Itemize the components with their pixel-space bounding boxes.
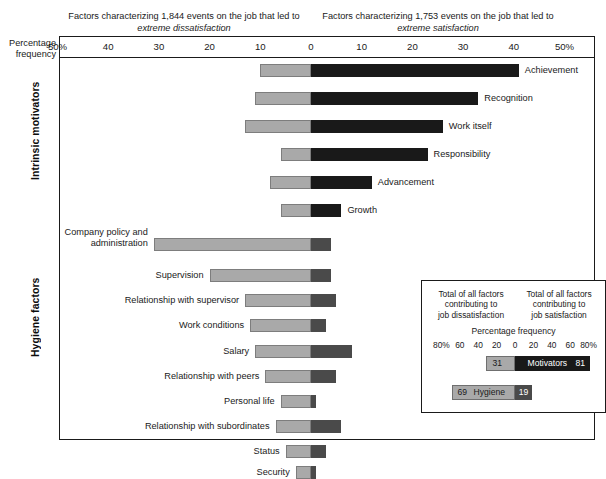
bar-segment-dissatisfaction [245, 120, 311, 133]
inset-caption-dis-l2: contributing to [445, 299, 498, 309]
inset-caption-dis-l3: job dissatisfaction [438, 310, 504, 320]
bar-segment-dissatisfaction [296, 466, 311, 479]
x-axis-tick-left-40: 40 [103, 41, 114, 52]
bar-segment-satisfaction [311, 445, 326, 458]
bar-segment-satisfaction [311, 269, 331, 282]
caption-dissatisfaction: Factors characterizing 1,844 events on t… [58, 11, 310, 34]
bar-segment-dissatisfaction [281, 395, 311, 408]
bar-segment-satisfaction [311, 204, 341, 217]
inset-series-name: Hygiene [474, 385, 506, 400]
bar-row: Advancement [60, 176, 594, 189]
inset-caption-dissatisfaction: Total of all factors contributing to job… [427, 289, 515, 320]
bar-label: Supervision [156, 270, 204, 281]
bar-segment-dissatisfaction [260, 64, 311, 77]
x-axis-tick-right-50pct: 50% [555, 41, 574, 52]
inset-value-dissatisfaction: 69 [458, 385, 468, 400]
bar-segment-dissatisfaction [270, 176, 311, 189]
bar-segment-dissatisfaction [281, 204, 311, 217]
inset-value-dissatisfaction: 31 [492, 356, 502, 371]
bar-row: Recognition [60, 92, 594, 105]
bar-segment-satisfaction [311, 120, 443, 133]
inset-tick-right-80pct: 80% [580, 340, 597, 350]
bar-segment-satisfaction [311, 148, 428, 161]
bar-label: Relationship with supervisor [125, 295, 239, 306]
x-axis-tick-right-0: 0 [308, 41, 313, 52]
bar-label: Achievement [525, 65, 578, 76]
inset-tick-left-40: 40 [474, 340, 483, 350]
chart-frame: 50%4030201001020304050% AchievementRecog… [59, 36, 595, 440]
bar-segment-satisfaction [311, 294, 336, 307]
x-axis-tick-right-30: 30 [458, 41, 469, 52]
inset-tick-left-80pct: 80% [433, 340, 450, 350]
group-label-intrinsic-motivators: Intrinsic motivators [30, 66, 41, 196]
x-axis-tick-right-10: 10 [356, 41, 367, 52]
x-axis-tick-left-50pct: 50% [48, 41, 67, 52]
inset-series-name: Motivators [528, 356, 568, 371]
bar-segment-dissatisfaction [245, 294, 311, 307]
bar-segment-satisfaction [311, 420, 341, 433]
group-label-hygiene-factors: Hygiene factors [30, 240, 41, 395]
inset-tick-right-60: 60 [566, 340, 575, 350]
inset-bar-row: 6919Hygiene [422, 385, 605, 400]
bar-row: Company policy and administration [60, 238, 594, 251]
inset-tick-left-0: 0 [513, 340, 518, 350]
bar-segment-satisfaction [311, 395, 316, 408]
bar-segment-dissatisfaction [265, 370, 311, 383]
inset-caption-sat-l2: contributing to [533, 299, 586, 309]
bar-segment-dissatisfaction [255, 345, 311, 358]
x-axis-tick-row: 50%4030201001020304050% [60, 37, 594, 58]
bar-segment-satisfaction [311, 64, 519, 77]
x-axis-tick-left-20: 20 [204, 41, 215, 52]
x-axis-tick-left-30: 30 [154, 41, 165, 52]
bar-label: Relationship with peers [164, 371, 259, 382]
x-axis-tick-left-10: 10 [255, 41, 266, 52]
bar-label: Growth [347, 205, 377, 216]
bar-segment-dissatisfaction [276, 420, 311, 433]
inset-tick-left-60: 60 [455, 340, 464, 350]
inset-tick-right-40: 40 [547, 340, 556, 350]
bar-label: Relationship with subordinates [145, 421, 270, 432]
bar-label: Responsibility [434, 149, 491, 160]
inset-tick-right-20: 20 [529, 340, 538, 350]
x-axis-tick-right-20: 20 [407, 41, 418, 52]
summary-legend-inset: Total of all factors contributing to job… [421, 280, 606, 413]
caption-dissatisfaction-line1: Factors characterizing 1,844 events on t… [68, 11, 299, 21]
bar-row: Status [60, 445, 594, 458]
bar-label: Work itself [449, 121, 492, 132]
bar-segment-satisfaction [311, 370, 336, 383]
bar-segment-satisfaction [311, 319, 326, 332]
bar-segment-dissatisfaction [286, 445, 311, 458]
inset-caption-sat-l3: job satisfaction [531, 310, 586, 320]
bar-segment-dissatisfaction [281, 148, 311, 161]
bar-label: Security [257, 467, 290, 478]
inset-bar-row: 3181Motivators [422, 356, 605, 371]
bar-segment-dissatisfaction [255, 92, 311, 105]
inset-value-satisfaction: 81 [576, 356, 586, 371]
bar-row: Achievement [60, 64, 594, 77]
bar-label: Salary [223, 346, 249, 357]
inset-tick-left-20: 20 [492, 340, 501, 350]
bar-segment-dissatisfaction [250, 319, 311, 332]
caption-satisfaction-line1: Factors characterizing 1,753 events on t… [322, 11, 553, 21]
caption-satisfaction: Factors characterizing 1,753 events on t… [312, 11, 564, 34]
bar-segment-dissatisfaction [210, 269, 311, 282]
bar-label: Personal life [224, 396, 275, 407]
inset-value-satisfaction: 19 [519, 385, 529, 400]
bar-row: Work itself [60, 120, 594, 133]
bar-segment-satisfaction [311, 92, 478, 105]
bar-row: Growth [60, 204, 594, 217]
inset-caption-dis-l1: Total of all factors [438, 289, 503, 299]
bar-segment-satisfaction [311, 176, 372, 189]
bar-row: Responsibility [60, 148, 594, 161]
bar-segment-dissatisfaction [154, 238, 311, 251]
bar-segment-satisfaction [311, 345, 352, 358]
inset-caption-sat-l1: Total of all factors [526, 289, 591, 299]
bar-label: Work conditions [179, 320, 244, 331]
caption-dissatisfaction-line2: extreme dissatisfaction [137, 23, 230, 33]
bar-row: Relationship with subordinates [60, 420, 594, 433]
bar-label: Advancement [378, 177, 434, 188]
bar-row: Security [60, 466, 594, 479]
bar-segment-satisfaction [311, 238, 331, 251]
bar-segment-satisfaction [311, 466, 316, 479]
bar-label: Recognition [484, 93, 533, 104]
